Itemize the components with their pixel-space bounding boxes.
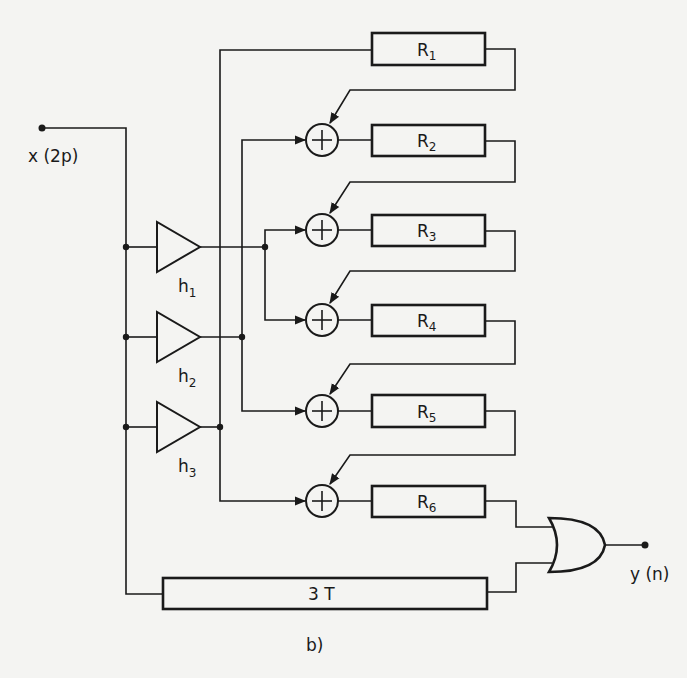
register-R3-label: R3 xyxy=(417,221,436,244)
amplifier-h3-label: h3 xyxy=(178,456,196,480)
amplifier-h1-label: h1 xyxy=(178,276,196,300)
delay-3T-label: 3 T xyxy=(308,584,335,604)
input-bus-taps xyxy=(123,244,157,430)
h2-output-wires xyxy=(200,140,305,411)
input-label: x (2p) xyxy=(28,146,78,166)
amplifier-h1 xyxy=(157,222,200,272)
adder-1 xyxy=(306,124,338,156)
amplifier-h2-label: h2 xyxy=(178,366,196,390)
or-gate xyxy=(485,501,649,592)
amplifier-h3 xyxy=(157,402,200,452)
register-R2-label: R2 xyxy=(417,131,436,154)
h3-output-wires xyxy=(200,50,372,501)
register-R5-label: R5 xyxy=(417,402,436,425)
register-R6-label: R6 xyxy=(417,492,436,515)
amplifier-h2 xyxy=(157,312,200,362)
adders xyxy=(306,124,338,517)
figure-caption: b) xyxy=(306,635,323,655)
output-label: y (n) xyxy=(630,564,670,584)
adder-4 xyxy=(306,395,338,427)
input-terminal xyxy=(39,125,164,595)
adder-3 xyxy=(306,304,338,336)
adder-5 xyxy=(306,485,338,517)
block-diagram: x (2p) h1 h2 h3 xyxy=(0,0,687,678)
register-R4-label: R4 xyxy=(417,311,436,334)
adder-2 xyxy=(306,214,338,246)
h1-output-wires xyxy=(200,230,305,320)
register-R1-label: R1 xyxy=(417,40,436,63)
